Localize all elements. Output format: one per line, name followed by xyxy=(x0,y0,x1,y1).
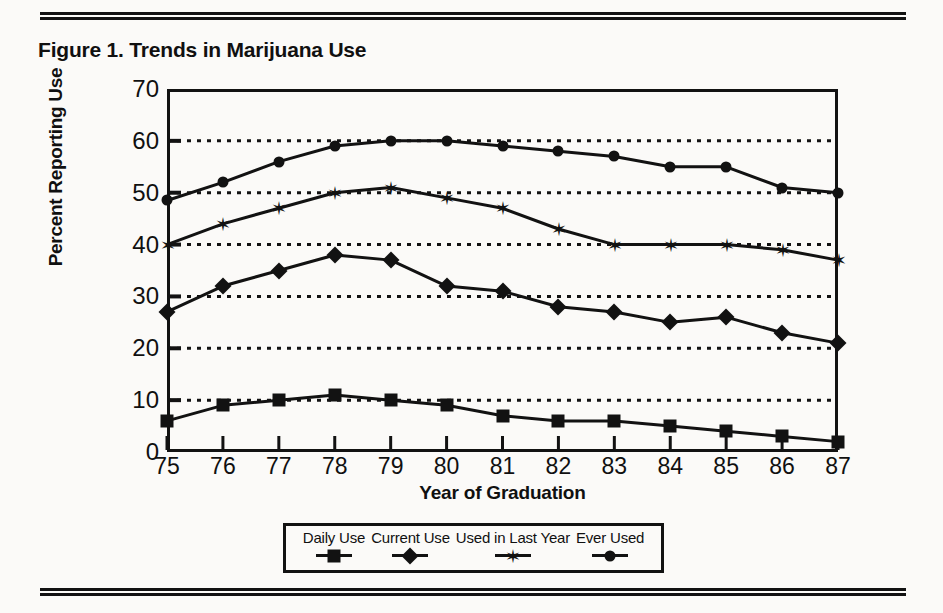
y-tick-label: 10 xyxy=(111,388,159,412)
data-point-3-12 xyxy=(833,187,844,198)
legend-item-1[interactable]: Current Use xyxy=(368,529,453,564)
data-point-2-10: ✶ xyxy=(719,237,734,252)
data-point-2-4: ✶ xyxy=(383,180,398,195)
legend-item-label: Used in Last Year xyxy=(456,529,570,546)
y-tick-label: 70 xyxy=(111,77,159,101)
data-point-0-5 xyxy=(440,399,453,412)
data-point-3-8 xyxy=(609,151,620,162)
x-tick-label: 76 xyxy=(195,455,251,478)
data-point-3-0 xyxy=(162,195,173,206)
square-marker-icon xyxy=(327,549,340,562)
x-tick-label: 75 xyxy=(139,455,195,478)
data-point-0-8 xyxy=(608,414,621,427)
legend-item-3[interactable]: Ever Used xyxy=(573,529,647,564)
data-point-0-11 xyxy=(776,430,789,443)
y-axis-tick-labels: 010203040506070 xyxy=(107,0,159,613)
data-point-2-6: ✶ xyxy=(495,201,510,216)
y-tick-label: 20 xyxy=(111,336,159,360)
line-chart: 010203040506070 757677787980818283848586… xyxy=(0,0,943,613)
x-tick-label: 82 xyxy=(530,455,586,478)
legend-item-label: Daily Use xyxy=(303,529,365,546)
x-tick-label: 80 xyxy=(419,455,475,478)
legend-item-2[interactable]: Used in Last Year✶ xyxy=(453,529,573,564)
bottom-double-rule xyxy=(40,588,906,595)
data-point-0-6 xyxy=(496,409,509,422)
star-marker-icon: ✶ xyxy=(505,548,520,563)
legend-item-swatch xyxy=(588,547,632,564)
data-point-0-7 xyxy=(552,414,565,427)
data-point-2-3: ✶ xyxy=(327,185,342,200)
data-point-3-1 xyxy=(217,177,228,188)
x-tick-label: 87 xyxy=(810,455,866,478)
x-tick-label: 77 xyxy=(251,455,307,478)
figure-page: Figure 1. Trends in Marijuana Use 010203… xyxy=(0,0,943,613)
data-point-2-5: ✶ xyxy=(439,190,454,205)
data-point-3-5 xyxy=(441,135,452,146)
data-point-2-11: ✶ xyxy=(775,242,790,257)
y-tick-label: 50 xyxy=(111,181,159,205)
data-point-2-2: ✶ xyxy=(271,201,286,216)
x-axis-title: Year of Graduation xyxy=(167,482,838,504)
data-point-2-7: ✶ xyxy=(551,222,566,237)
data-point-3-2 xyxy=(273,156,284,167)
data-point-0-9 xyxy=(664,420,677,433)
diamond-marker-icon xyxy=(402,547,419,564)
data-point-3-6 xyxy=(497,141,508,152)
y-tick-label: 40 xyxy=(111,233,159,257)
data-point-0-12 xyxy=(832,435,845,448)
x-tick-label: 86 xyxy=(754,455,810,478)
x-tick-label: 84 xyxy=(642,455,698,478)
data-point-3-9 xyxy=(665,161,676,172)
data-point-2-0: ✶ xyxy=(160,237,175,252)
chart-legend: Daily UseCurrent UseUsed in Last Year✶Ev… xyxy=(283,523,664,573)
data-point-0-1 xyxy=(216,399,229,412)
data-point-3-7 xyxy=(553,146,564,157)
y-axis-title: Percent Reporting Use xyxy=(45,52,67,282)
data-point-2-1: ✶ xyxy=(215,216,230,231)
legend-item-swatch xyxy=(312,547,356,564)
data-point-2-8: ✶ xyxy=(607,237,622,252)
data-point-0-0 xyxy=(161,414,174,427)
y-tick-label: 30 xyxy=(111,284,159,308)
y-tick-label: 60 xyxy=(111,129,159,153)
circle-marker-icon xyxy=(605,550,616,561)
data-point-3-11 xyxy=(777,182,788,193)
data-point-3-3 xyxy=(329,141,340,152)
x-tick-label: 81 xyxy=(475,455,531,478)
data-point-0-2 xyxy=(272,394,285,407)
data-point-0-4 xyxy=(384,394,397,407)
legend-item-swatch xyxy=(388,547,432,564)
legend-item-swatch: ✶ xyxy=(491,547,535,564)
legend-item-label: Current Use xyxy=(371,529,450,546)
x-tick-label: 78 xyxy=(307,455,363,478)
data-point-0-3 xyxy=(328,388,341,401)
x-tick-label: 85 xyxy=(698,455,754,478)
data-point-0-10 xyxy=(720,425,733,438)
legend-entries: Daily UseCurrent UseUsed in Last Year✶Ev… xyxy=(286,526,661,570)
data-point-3-4 xyxy=(385,135,396,146)
legend-item-0[interactable]: Daily Use xyxy=(300,529,368,564)
data-point-2-12: ✶ xyxy=(831,253,846,268)
data-point-2-9: ✶ xyxy=(663,237,678,252)
data-point-3-10 xyxy=(721,161,732,172)
x-tick-label: 79 xyxy=(363,455,419,478)
legend-item-label: Ever Used xyxy=(576,529,644,546)
x-tick-label: 83 xyxy=(586,455,642,478)
